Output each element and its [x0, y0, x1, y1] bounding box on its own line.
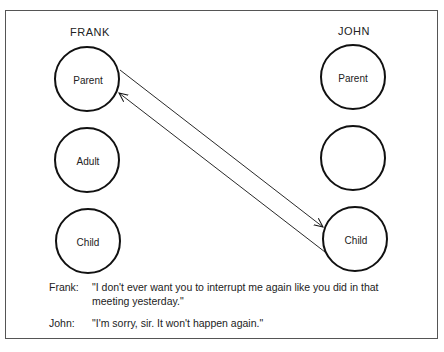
frank-name-label: FRANK: [70, 26, 110, 38]
john-child-label: Child: [345, 235, 368, 246]
speaker-john: John:: [49, 316, 75, 330]
frank-child-label: Child: [77, 237, 100, 248]
john-name-label: JOHN: [338, 25, 370, 37]
frank-adult-label: Adult: [77, 156, 100, 167]
frank-parent-label: Parent: [73, 75, 102, 86]
dialogue-frank: Frank: "I don't ever want you to interru…: [49, 280, 439, 310]
john-adult-circle: [321, 126, 385, 190]
john-quote-line1: "I'm sorry, sir. It won't happen again.": [92, 316, 432, 330]
arrow-frank-parent-to-john-child: [120, 70, 323, 227]
dialogue-john: John: "I'm sorry, sir. It won't happen a…: [49, 316, 439, 332]
john-parent-label: Parent: [338, 73, 367, 84]
frank-quote-line2: meeting yesterday.": [92, 294, 432, 308]
frank-quote-line1: "I don't ever want you to interrupt me a…: [92, 280, 432, 294]
speaker-frank: Frank:: [49, 280, 79, 294]
arrow-john-child-to-frank-parent: [119, 93, 325, 252]
